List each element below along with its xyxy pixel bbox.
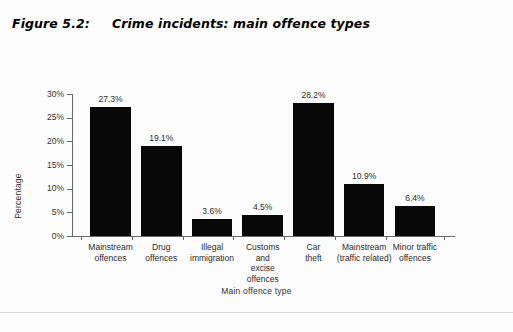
bar[interactable]: 28.2%: [293, 103, 334, 236]
bar[interactable]: 10.9%: [344, 184, 385, 236]
y-axis-tick-mark: [67, 165, 72, 166]
x-axis-tick-mark: [183, 236, 184, 240]
x-axis-tick-mark: [81, 236, 82, 240]
y-axis-tick-mark: [67, 212, 72, 213]
figure-title: Crime incidents: main offence types: [112, 16, 370, 31]
y-axis-tick-label: 0%: [52, 231, 64, 241]
bar-value-label: 28.2%: [301, 90, 325, 100]
bar-value-label: 4.5%: [253, 202, 272, 212]
y-axis-tick-label: 20%: [47, 136, 64, 146]
bar[interactable]: 6.4%: [395, 206, 436, 236]
x-axis-category-label: Minor traffic offences: [379, 242, 450, 263]
y-axis-tick-label: 10%: [47, 183, 64, 193]
y-axis-label: Percentage: [13, 151, 23, 241]
y-axis-tick-label: 25%: [47, 112, 64, 122]
y-axis-line: [72, 94, 73, 236]
x-axis-tick-mark: [444, 236, 445, 240]
y-axis-tick-label: 5%: [52, 207, 64, 217]
bar-value-label: 19.1%: [149, 133, 173, 143]
x-axis-tick-mark: [284, 236, 285, 240]
bar[interactable]: 19.1%: [141, 146, 182, 236]
figure-page: Figure 5.2: Crime incidents: main offenc…: [0, 0, 513, 332]
y-axis-tick-mark: [67, 141, 72, 142]
bar-value-label: 10.9%: [352, 171, 376, 181]
y-axis-tick-mark: [67, 118, 72, 119]
y-axis-tick-mark: [67, 189, 72, 190]
y-axis-tick-label: 30%: [47, 89, 64, 99]
bar[interactable]: 27.3%: [90, 107, 131, 236]
bar[interactable]: 3.6%: [192, 219, 233, 236]
x-axis-tick-mark: [132, 236, 133, 240]
x-axis-title: Main offence type: [0, 286, 513, 296]
y-axis-tick-label: 15%: [47, 160, 64, 170]
y-axis-tick-mark: [67, 236, 72, 237]
figure-caption: Figure 5.2: Crime incidents: main offenc…: [12, 16, 370, 31]
y-axis-tick-mark: [67, 94, 72, 95]
bar[interactable]: 4.5%: [242, 215, 283, 236]
bar-value-label: 27.3%: [98, 94, 122, 104]
bar-value-label: 6.4%: [405, 193, 424, 203]
bar-value-label: 3.6%: [202, 206, 221, 216]
x-axis-tick-mark: [335, 236, 336, 240]
x-axis-tick-mark: [233, 236, 234, 240]
x-axis-tick-mark: [386, 236, 387, 240]
chart-container: Percentage 0%5%10%15%20%25%30% 27.3%19.1…: [0, 54, 513, 313]
figure-number: Figure 5.2:: [12, 16, 90, 31]
x-axis-line: [72, 236, 455, 237]
plot-area: 0%5%10%15%20%25%30% 27.3%19.1%3.6%4.5%28…: [72, 94, 455, 236]
